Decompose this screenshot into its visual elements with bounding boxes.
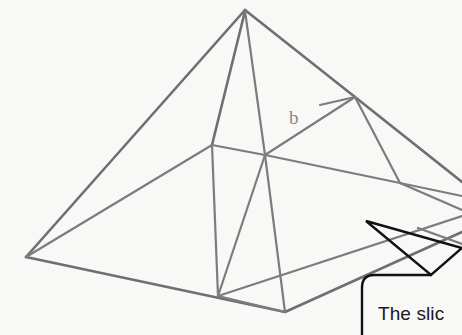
edge-front-left-node-to-base-front [218,296,285,312]
pyramid-outer-edges [26,10,462,312]
pyramid-diagram-svg: b [0,0,462,335]
edge-apex-to-base-left [26,10,245,257]
edge-center-to-right-node [265,155,462,196]
dimension-label-b: b [289,107,299,128]
edge-apex-to-right-far [245,10,462,182]
edge-base-left-to-back-node [26,145,212,257]
pyramid-interior-edges [26,11,462,312]
wedge-upper-edge [400,183,462,210]
edge-slice-upper-right-to-center [265,97,355,155]
edge-center-to-base-front [265,155,285,312]
edge-slice-upper-right-to-right-node [355,97,400,183]
edge-front-left-node-riser [212,145,218,296]
edge-apex-to-base-back [212,11,245,145]
slice-pointer-arrow [366,221,462,275]
edge-back-node-to-center [212,145,265,155]
edge-lower-right-runoff [218,216,462,296]
figure-root: b The slic [0,0,462,335]
callout-caption: The slic [378,303,444,325]
